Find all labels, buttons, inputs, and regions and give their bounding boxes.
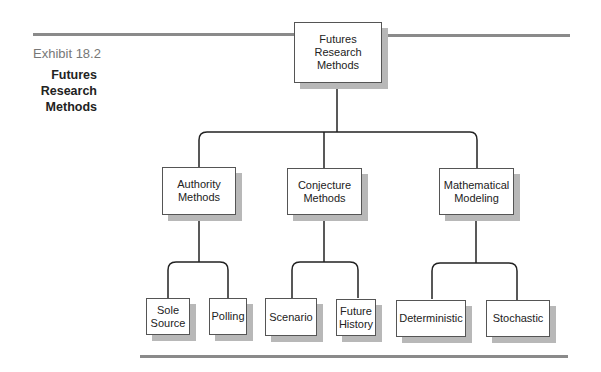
root-node: Futures Research Methods	[294, 22, 382, 83]
leaf-stochastic: Stochastic	[486, 300, 550, 337]
node-authority-methods: Authority Methods	[162, 167, 236, 215]
leaf-future-history: Future History	[336, 299, 376, 336]
leaf-sole-source: Sole Source	[146, 298, 190, 335]
leaf-polling: Polling	[209, 298, 247, 335]
leaf-deterministic: Deterministic	[396, 300, 466, 337]
leaf-scenario: Scenario	[265, 298, 317, 336]
node-conjecture-methods: Conjecture Methods	[287, 168, 362, 215]
node-mathematical-modeling: Mathematical Modeling	[439, 168, 514, 215]
